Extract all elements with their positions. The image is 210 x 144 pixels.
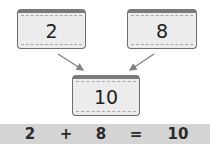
equation-right: 8: [96, 125, 106, 143]
dashed-line: [76, 111, 136, 112]
equation-result: 10: [168, 125, 189, 143]
equation-left: 2: [25, 125, 35, 143]
equation-operator: +: [60, 125, 73, 143]
equation-equals: =: [130, 125, 143, 143]
arrows: [0, 0, 210, 144]
sum-card: 10: [72, 75, 140, 116]
arrow-right-icon: [130, 54, 154, 70]
card-value: 10: [73, 79, 139, 115]
equation-bar: 2 + 8 = 10: [0, 124, 210, 144]
arrow-left-icon: [58, 54, 83, 70]
